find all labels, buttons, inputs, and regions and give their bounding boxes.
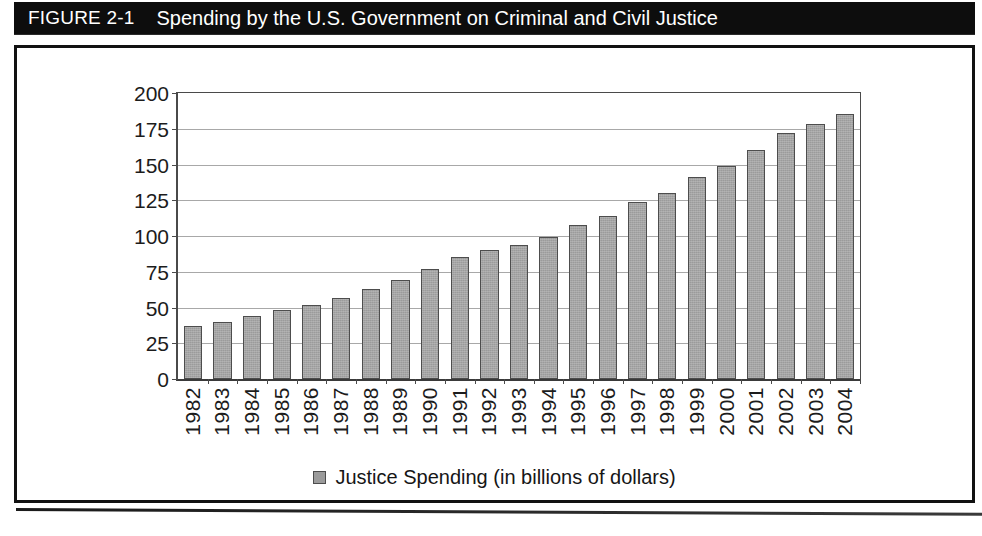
x-tick-label: 2001 <box>745 387 766 436</box>
figure-label: FIGURE 2-1 <box>14 7 135 29</box>
bar <box>184 326 202 379</box>
bar <box>273 310 291 379</box>
x-tick-mark <box>563 379 564 384</box>
bar <box>539 237 557 379</box>
x-tick-label: 1999 <box>686 387 707 436</box>
chart-legend: Justice Spending (in billions of dollars… <box>17 466 972 489</box>
x-tick-label: 2003 <box>805 387 826 436</box>
x-tick-label: 1987 <box>330 387 351 436</box>
x-tick-mark <box>356 379 357 384</box>
bar <box>717 166 735 379</box>
x-tick-label: 1984 <box>241 387 262 436</box>
x-tick-label: 1991 <box>449 387 470 436</box>
x-tick-label: 1982 <box>182 387 203 436</box>
x-tick-mark <box>860 379 861 384</box>
x-tick-label: 1998 <box>656 387 677 436</box>
x-tick-label: 1985 <box>271 387 292 436</box>
x-tick-mark <box>830 379 831 384</box>
y-tick-mark <box>172 308 178 309</box>
plot-area: 0255075100125150175200 19821983198419851… <box>176 92 861 381</box>
x-tick-label: 2002 <box>775 387 796 436</box>
bar <box>302 305 320 379</box>
bar <box>391 280 409 379</box>
legend-label: Justice Spending (in billions of dollars… <box>335 466 675 489</box>
bar <box>569 225 587 379</box>
x-tick-mark <box>297 379 298 384</box>
x-tick-label: 1989 <box>389 387 410 436</box>
x-tick-label: 1997 <box>627 387 648 436</box>
x-tick-mark <box>386 379 387 384</box>
y-tick-mark <box>172 272 178 273</box>
x-tick-mark <box>771 379 772 384</box>
y-tick-mark <box>172 129 178 130</box>
x-tick-mark <box>623 379 624 384</box>
x-tick-label: 1986 <box>300 387 321 436</box>
x-tick-label: 1993 <box>508 387 529 436</box>
legend-swatch-justice-spending <box>313 471 326 484</box>
x-tick-mark <box>534 379 535 384</box>
x-tick-mark <box>475 379 476 384</box>
bar <box>688 177 706 379</box>
x-tick-mark <box>593 379 594 384</box>
bar <box>777 133 795 379</box>
bar <box>362 289 380 379</box>
x-tick-mark <box>801 379 802 384</box>
y-tick-label: 175 <box>134 118 169 139</box>
bar <box>332 298 350 380</box>
x-tick-mark <box>504 379 505 384</box>
y-tick-mark <box>172 379 178 380</box>
x-tick-mark <box>326 379 327 384</box>
y-tick-mark <box>172 343 178 344</box>
y-tick-label: 125 <box>134 190 169 211</box>
bar <box>599 216 617 379</box>
x-tick-label: 2000 <box>716 387 737 436</box>
bar <box>510 245 528 379</box>
bar <box>243 316 261 379</box>
bar <box>451 257 469 379</box>
x-tick-mark <box>445 379 446 384</box>
figure-title: Spending by the U.S. Government on Crimi… <box>135 7 718 30</box>
bar <box>480 250 498 379</box>
x-tick-mark <box>267 379 268 384</box>
y-tick-label: 25 <box>146 333 169 354</box>
y-tick-label: 200 <box>134 83 169 104</box>
x-tick-label: 1990 <box>419 387 440 436</box>
bar <box>836 114 854 379</box>
x-tick-mark <box>415 379 416 384</box>
bar <box>628 202 646 379</box>
x-tick-mark <box>682 379 683 384</box>
bar <box>658 193 676 379</box>
bar <box>421 269 439 379</box>
x-tick-label: 1988 <box>360 387 381 436</box>
y-tick-mark <box>172 93 178 94</box>
x-tick-mark <box>208 379 209 384</box>
page-divider-rule <box>16 508 982 516</box>
bar <box>806 124 824 379</box>
y-tick-mark <box>172 236 178 237</box>
bar <box>747 150 765 379</box>
x-tick-label: 1994 <box>538 387 559 436</box>
x-tick-label: 1995 <box>567 387 588 436</box>
y-tick-label: 50 <box>146 297 169 318</box>
y-tick-label: 150 <box>134 154 169 175</box>
chart-canvas: 0255075100125150175200 19821983198419851… <box>17 48 972 500</box>
x-tick-mark <box>237 379 238 384</box>
figure-banner: FIGURE 2-1 Spending by the U.S. Governme… <box>14 2 975 34</box>
x-tick-mark <box>741 379 742 384</box>
x-tick-label: 1983 <box>211 387 232 436</box>
gridline <box>178 129 860 130</box>
x-tick-label: 1992 <box>478 387 499 436</box>
x-tick-label: 1996 <box>597 387 618 436</box>
y-tick-label: 0 <box>157 369 169 390</box>
chart-frame: 0255075100125150175200 19821983198419851… <box>14 45 975 503</box>
y-tick-mark <box>172 200 178 201</box>
bar <box>213 322 231 379</box>
x-tick-mark <box>652 379 653 384</box>
y-tick-mark <box>172 165 178 166</box>
x-tick-label: 2004 <box>834 387 855 436</box>
y-tick-label: 75 <box>146 261 169 282</box>
y-tick-label: 100 <box>134 226 169 247</box>
x-tick-mark <box>712 379 713 384</box>
